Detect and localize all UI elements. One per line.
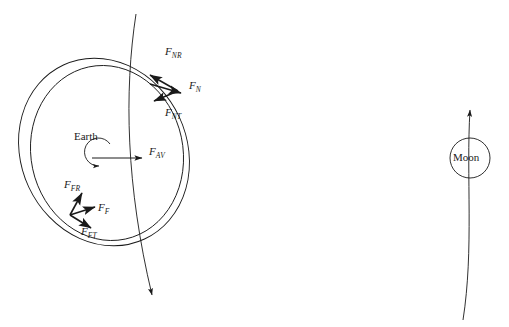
f-nt-vector-arrow xyxy=(154,91,178,101)
f-av-vector-arrow xyxy=(92,132,142,178)
f-nt-label: FNT xyxy=(165,107,181,118)
moon-label: Moon xyxy=(453,152,479,163)
earth-spin-arc-icon xyxy=(85,138,110,166)
moon-orbit-path xyxy=(463,110,470,320)
f-fr-label: FFR xyxy=(64,179,80,190)
tidal-torque-diagram: Earth Moon FNR FN FNT FAV FFR FF FFT xyxy=(0,0,509,327)
f-f-label: FF xyxy=(98,202,110,213)
far-side-force-triad xyxy=(70,193,95,228)
f-av-label: FAV xyxy=(149,146,165,157)
earth-inner-body-ellipse xyxy=(14,51,199,255)
earth-label: Earth xyxy=(74,131,98,142)
f-n-label: FN xyxy=(189,80,201,91)
f-ft-label: FFT xyxy=(81,226,97,237)
f-nr-label: FNR xyxy=(165,46,182,57)
diagram-canvas xyxy=(0,0,509,327)
